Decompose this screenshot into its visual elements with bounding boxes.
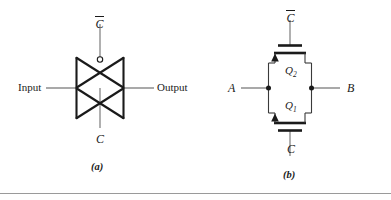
- node-a-junction-dot: [266, 86, 271, 91]
- figure-container: C C Input Output (a) C C A B Q2 Q1 (b): [0, 0, 391, 200]
- panel-b-node-a-label: A: [228, 82, 235, 94]
- panel-a-control-top-text: C: [95, 18, 104, 30]
- panel-a-control-top-label: C: [95, 18, 104, 30]
- q1-substrate-arrow-icon: [271, 114, 279, 122]
- q1-base: Q: [285, 99, 293, 111]
- panel-a-input-label: Input: [18, 82, 41, 93]
- panel-b-control-top-text: C: [286, 12, 295, 24]
- panel-a-output-label: Output: [157, 82, 188, 93]
- page-separator-rule: [0, 193, 391, 194]
- panel-b-diagram: [0, 0, 391, 200]
- node-b-junction-dot: [309, 86, 314, 91]
- panel-a-caption: (a): [91, 162, 103, 173]
- cmos-transmission-gate: [241, 20, 340, 156]
- panel-b-caption: (b): [283, 170, 295, 181]
- q2-base: Q: [285, 64, 293, 76]
- panel-a-control-bottom-label: C: [96, 133, 104, 145]
- panel-b-q2-label: Q2: [285, 65, 297, 79]
- q1-subscript: 1: [293, 105, 297, 114]
- q2-subscript: 2: [293, 70, 297, 79]
- panel-b-q1-label: Q1: [285, 100, 297, 114]
- q2-substrate-arrow-icon: [271, 54, 279, 62]
- panel-b-node-b-label: B: [347, 82, 354, 94]
- panel-b-control-bottom-label: C: [287, 143, 295, 155]
- panel-b-control-top-label: C: [286, 12, 295, 24]
